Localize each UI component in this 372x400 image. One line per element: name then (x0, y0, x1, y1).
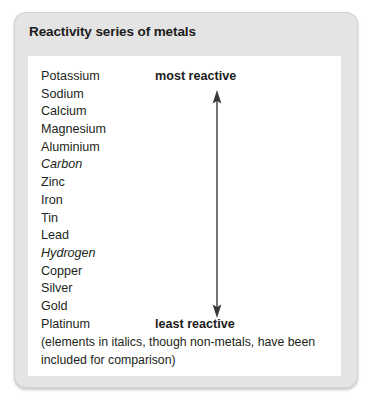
list-item: Zinc (41, 174, 161, 192)
list-item: Iron (41, 192, 161, 210)
list-item: Magnesium (41, 121, 161, 139)
figure-title: Reactivity series of metals (29, 24, 196, 39)
reactivity-series-figure: Reactivity series of metals Potassium So… (14, 12, 358, 388)
figure-footnote: (elements in italics, though non-metals,… (41, 334, 331, 369)
least-reactive-label: least reactive (155, 316, 330, 334)
most-reactive-label: most reactive (155, 68, 330, 86)
list-item: Potassium (41, 68, 161, 86)
list-item: Gold (41, 298, 161, 316)
list-item: Aluminium (41, 139, 161, 157)
list-item: Copper (41, 263, 161, 281)
list-item: Calcium (41, 103, 161, 121)
figure-panel: Potassium Sodium Calcium Magnesium Alumi… (28, 56, 341, 376)
reactivity-series-list: Potassium Sodium Calcium Magnesium Alumi… (41, 68, 161, 333)
reactivity-arrow-group: most reactive least reactive (155, 68, 330, 328)
list-item: Hydrogen (41, 245, 161, 263)
list-item: Lead (41, 227, 161, 245)
list-item: Sodium (41, 86, 161, 104)
list-item: Tin (41, 210, 161, 228)
list-item: Silver (41, 280, 161, 298)
double-headed-vertical-arrow-icon (209, 90, 225, 318)
list-item: Platinum (41, 316, 161, 334)
list-item: Carbon (41, 156, 161, 174)
